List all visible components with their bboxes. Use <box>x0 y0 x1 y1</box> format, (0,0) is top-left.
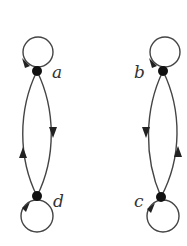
edge-b-to-c <box>148 71 163 197</box>
self-loop-b <box>150 37 180 67</box>
label-b: b <box>134 62 145 82</box>
arrowhead-d-to-a-icon <box>19 147 27 158</box>
arrowhead-a-to-d-icon <box>49 127 57 138</box>
edge-a-to-d <box>37 71 51 196</box>
edge-d-to-a <box>23 71 37 196</box>
label-c: c <box>134 191 144 211</box>
self-loop-a <box>23 37 53 67</box>
label-d: d <box>53 191 64 211</box>
node-a <box>32 66 42 76</box>
node-d <box>32 191 42 201</box>
label-a: a <box>52 62 62 82</box>
edge-c-to-b <box>161 71 177 197</box>
self-loop-d <box>21 200 53 232</box>
self-loop-c <box>147 200 179 232</box>
node-b <box>158 66 168 76</box>
graph-diagram: a d b c <box>0 0 187 246</box>
node-c <box>156 192 166 202</box>
